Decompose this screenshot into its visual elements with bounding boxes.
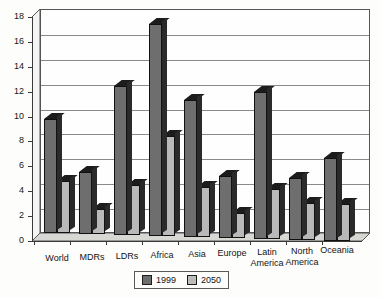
plot-area <box>32 9 370 241</box>
x-category-label: Europe <box>212 248 252 259</box>
y-tick-label: 8 <box>19 136 24 145</box>
legend-item-2050: 2050 <box>187 275 221 285</box>
bar-side-face <box>175 130 180 233</box>
bar-front-face <box>324 158 337 241</box>
x-category-label: North America <box>282 246 322 268</box>
chart-legend: 1999 2050 <box>134 271 229 289</box>
legend-label-2050: 2050 <box>201 275 221 285</box>
bar-side-face <box>245 207 250 235</box>
bar-1999 <box>219 176 232 238</box>
bar-side-face <box>140 179 145 232</box>
bar-side-face <box>302 171 307 237</box>
bar-chart: 024681012141618 WorldMDRsLDRsAfricaAsiaE… <box>0 0 380 298</box>
bar-side-face <box>57 112 62 230</box>
bar-side-face <box>197 94 202 234</box>
bar-1999 <box>289 178 302 240</box>
bar-group <box>324 240 350 241</box>
legend-swatch-2050 <box>187 275 197 285</box>
y-tick-mark <box>28 17 33 18</box>
bar-side-face <box>70 174 75 230</box>
y-tick-label: 10 <box>14 112 24 121</box>
bar-group <box>44 232 70 233</box>
y-tick-label: 16 <box>14 37 24 46</box>
bar-front-face <box>254 92 267 239</box>
bar-1999 <box>114 86 127 235</box>
y-tick-mark <box>28 141 33 142</box>
y-tick-label: 14 <box>14 62 24 71</box>
bar-side-face <box>280 183 285 236</box>
bar-group <box>184 236 210 237</box>
bar-1999 <box>149 24 162 236</box>
y-axis-line <box>32 17 33 241</box>
gridline <box>41 110 369 111</box>
bar-group <box>289 239 315 240</box>
y-tick-mark <box>28 216 33 217</box>
bar-side-face <box>350 197 355 238</box>
gridline <box>41 85 369 86</box>
bar-front-face <box>114 86 127 235</box>
bar-front-face <box>44 119 57 233</box>
y-axis-tick-labels: 024681012141618 <box>4 0 24 298</box>
bar-1999 <box>254 92 267 239</box>
x-category-label: LDRs <box>107 251 147 262</box>
bar-side-face <box>315 196 320 237</box>
y-tick-label: 4 <box>19 186 24 195</box>
y-tick-mark <box>28 241 33 242</box>
bar-group <box>114 234 140 235</box>
bar-group <box>219 237 245 238</box>
gridline <box>41 60 369 61</box>
bar-side-face <box>92 165 97 231</box>
legend-item-1999: 1999 <box>142 275 176 285</box>
y-tick-label: 0 <box>19 236 24 245</box>
bar-side-face <box>210 181 215 234</box>
x-axis-line <box>32 241 362 242</box>
y-tick-mark <box>28 191 33 192</box>
y-tick-mark <box>28 67 33 68</box>
bar-side-face <box>105 203 110 231</box>
bar-1999 <box>44 119 57 233</box>
y-tick-mark <box>28 117 33 118</box>
bar-1999 <box>79 172 92 234</box>
bar-front-face <box>184 100 197 237</box>
x-category-label: World <box>37 253 77 264</box>
y-tick-mark <box>28 166 33 167</box>
bar-side-face <box>162 18 167 233</box>
x-category-label: Asia <box>177 249 217 260</box>
gridline <box>41 134 369 135</box>
y-tick-label: 6 <box>19 161 24 170</box>
gridline <box>41 35 369 36</box>
bar-1999 <box>184 100 197 237</box>
legend-label-1999: 1999 <box>156 275 176 285</box>
bar-side-face <box>127 79 132 232</box>
bar-side-face <box>337 151 342 238</box>
y-tick-label: 12 <box>14 87 24 96</box>
bar-group <box>149 235 175 236</box>
bar-1999 <box>324 158 337 241</box>
y-tick-mark <box>28 92 33 93</box>
x-category-label: Africa <box>142 250 182 261</box>
y-tick-mark <box>28 42 33 43</box>
bar-group <box>254 238 280 239</box>
x-category-label: Oceania <box>317 245 357 256</box>
bar-group <box>79 233 105 234</box>
gridline <box>41 159 369 160</box>
legend-swatch-1999 <box>142 275 152 285</box>
bar-front-face <box>149 24 162 236</box>
bar-front-face <box>219 176 232 238</box>
bar-side-face <box>232 169 237 235</box>
bar-front-face <box>289 178 302 240</box>
y-tick-label: 2 <box>19 211 24 220</box>
x-category-label: Latin America <box>247 247 287 269</box>
x-category-label: MDRs <box>72 252 112 263</box>
bar-side-face <box>267 86 272 236</box>
bar-front-face <box>79 172 92 234</box>
y-tick-label: 18 <box>14 12 24 21</box>
